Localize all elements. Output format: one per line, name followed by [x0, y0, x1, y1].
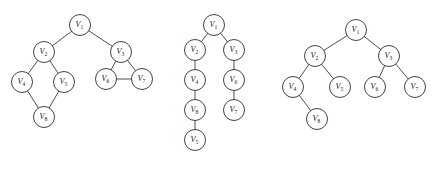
graph-edge	[201, 33, 208, 42]
graph-edge	[321, 64, 333, 79]
graph-canvas: V1V2V3V4V5V6V7V8V1V2V3V4V6V8V7V5V1V2V3V4…	[0, 0, 439, 169]
graph-node-v2: V2	[34, 42, 55, 63]
graph-node-v3: V3	[111, 42, 132, 63]
graph-node-v2: V2	[305, 46, 326, 67]
graph-node-v7: V7	[405, 77, 426, 98]
graph-edge	[220, 33, 228, 42]
graph-edge	[323, 35, 347, 50]
graph-node-v8: V8	[34, 107, 55, 128]
graph-node-v8: V8	[307, 109, 328, 130]
graph-node-v4: V4	[12, 72, 33, 93]
graph-node-v3: V3	[379, 46, 400, 67]
graph-figure: V1V2V3V4V5V6V7V8V1V2V3V4V6V8V7V5V1V2V3V4…	[0, 0, 439, 169]
graph-edge	[88, 31, 112, 47]
graph-node-v2: V2	[185, 40, 206, 61]
graph-node-v3: V3	[224, 40, 245, 61]
graph-node-v5: V5	[185, 130, 206, 151]
graph-edge	[49, 91, 59, 109]
graph-node-v6: V6	[96, 69, 117, 90]
graph-node-v4: V4	[283, 77, 304, 98]
graph-edge	[395, 64, 408, 80]
graph-edge	[50, 60, 59, 73]
graph-edge	[27, 90, 38, 108]
graph-edge	[379, 65, 385, 78]
graph-node-v7: V7	[132, 69, 153, 90]
graph-node-v5: V5	[330, 77, 351, 98]
graph-edge	[299, 64, 309, 79]
graph-panel-1: V1V2V3V4V5V6V7V8	[12, 15, 153, 128]
graph-node-v4: V4	[185, 70, 206, 91]
graph-edge	[364, 36, 381, 50]
graph-edge	[299, 95, 311, 111]
graph-node-v7: V7	[224, 100, 245, 121]
graph-panel-3: V1V2V3V4V5V6V7V8	[283, 20, 426, 130]
graph-panel-2: V1V2V3V4V6V8V7V5	[185, 15, 245, 151]
graph-node-v8: V8	[185, 100, 206, 121]
graph-edge	[111, 61, 116, 71]
graph-edge	[127, 60, 136, 71]
graph-node-v6: V6	[365, 77, 386, 98]
graph-node-v6: V6	[224, 70, 245, 91]
graph-node-v1: V1	[204, 15, 225, 36]
graph-node-v5: V5	[54, 72, 75, 93]
graph-edge	[28, 60, 38, 74]
graph-node-v1: V1	[70, 15, 91, 36]
graph-edge	[52, 31, 72, 46]
graph-node-v1: V1	[346, 20, 367, 41]
